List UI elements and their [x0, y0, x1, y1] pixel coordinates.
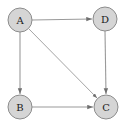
node-d[interactable]: D	[93, 7, 117, 31]
node-c[interactable]: C	[94, 95, 118, 119]
directed-graph-figure: A D B C	[0, 0, 124, 127]
edge-a-to-d	[32, 19, 92, 20]
edge-d-to-c	[105, 31, 106, 94]
node-d-label: D	[101, 14, 109, 25]
node-b-label: B	[16, 102, 23, 113]
node-a[interactable]: A	[8, 8, 32, 32]
node-c-label: C	[102, 102, 110, 113]
edge-a-to-c	[29, 29, 97, 98]
node-b[interactable]: B	[8, 95, 32, 119]
edges-group	[20, 19, 106, 107]
node-a-label: A	[15, 15, 24, 26]
graph-canvas: A D B C	[0, 0, 124, 127]
